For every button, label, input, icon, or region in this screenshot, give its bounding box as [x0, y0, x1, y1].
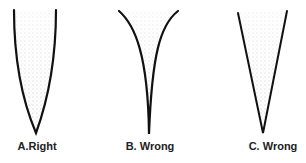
- tip-shape-b: [119, 11, 178, 134]
- figure-label-b: B. Wrong: [122, 140, 178, 152]
- figure-label-c: C. Wrong: [246, 140, 300, 152]
- tip-shape-a: [14, 10, 56, 133]
- figure-label-a: A.Right: [14, 140, 60, 152]
- tip-shape-c: [238, 11, 287, 133]
- diagram-canvas: [0, 0, 306, 163]
